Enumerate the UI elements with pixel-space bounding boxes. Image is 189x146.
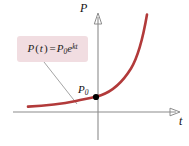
- exponential-growth-figure: P t P0 P(t)=P0ekt: [0, 0, 189, 146]
- p0-point-label: P0: [78, 84, 88, 96]
- formula-callout-box: P(t)=P0ekt: [17, 36, 88, 62]
- formula-exp-power: kt: [72, 42, 77, 51]
- formula-text: P(t)=P0ekt: [27, 43, 77, 55]
- p0-label-base: P: [78, 83, 85, 95]
- formula-equals: =: [49, 42, 57, 54]
- t-axis-label: t: [179, 115, 182, 127]
- p0-point-marker: [93, 94, 99, 100]
- formula-coefficient-base: P: [57, 42, 64, 54]
- p-axis-label: P: [80, 2, 87, 14]
- figure-canvas: [0, 0, 189, 146]
- callout-leader-line: [44, 62, 77, 104]
- p0-label-subscript: 0: [85, 88, 89, 97]
- formula-paren-close: ): [43, 42, 49, 54]
